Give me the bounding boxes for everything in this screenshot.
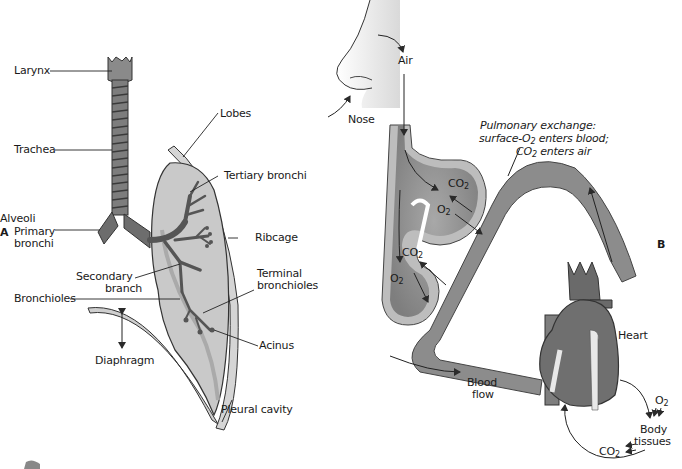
label-o2-lower: O2 xyxy=(390,273,403,285)
panel-a-letter: A xyxy=(0,226,9,239)
label-alveoli: Alveoli xyxy=(0,213,35,225)
label-co2-lower: CO2 xyxy=(402,247,423,259)
label-o2-upper: O2 xyxy=(437,204,450,216)
panel-b-letter: B xyxy=(657,238,665,251)
label-primary-bronchi-2: bronchi xyxy=(14,238,54,250)
respiratory-diagram xyxy=(0,0,682,469)
corner-artifact xyxy=(24,460,40,469)
label-body-tissues-2: tissues xyxy=(634,436,671,448)
label-heart: Heart xyxy=(618,330,648,342)
label-lobes: Lobes xyxy=(220,108,251,120)
larynx-shape xyxy=(108,57,132,83)
label-diaphragm: Diaphragm xyxy=(95,355,154,367)
label-ribcage: Ribcage xyxy=(255,232,298,244)
label-bronchioles: Bronchioles xyxy=(14,293,76,305)
label-co2-body: CO2 xyxy=(599,446,620,458)
label-blood-flow-2: flow xyxy=(472,389,494,401)
primary-bronchus-right xyxy=(124,214,150,248)
heart-shape xyxy=(540,262,619,410)
label-acinus: Acinus xyxy=(259,340,294,352)
label-tertiary-bronchi: Tertiary bronchi xyxy=(224,170,307,182)
label-pulmonary-exchange-2: surface-O2 enters blood; xyxy=(479,133,609,145)
panel-b-gas-exchange xyxy=(328,0,661,458)
label-nose: Nose xyxy=(348,114,375,126)
primary-bronchus-left xyxy=(98,212,118,244)
label-trachea: Trachea xyxy=(14,144,56,156)
label-secondary-branch-2: branch xyxy=(105,283,142,295)
label-pleural-cavity: Pleural cavity xyxy=(221,404,293,416)
label-co2-upper: CO2 xyxy=(448,178,469,190)
trachea-shape xyxy=(112,80,128,215)
label-larynx: Larynx xyxy=(14,65,50,77)
label-terminal-bronchioles-2: bronchioles xyxy=(257,280,318,292)
label-air: Air xyxy=(398,55,413,67)
label-pulmonary-exchange-3: CO2 enters air xyxy=(516,146,591,158)
nose-shape xyxy=(337,0,400,108)
label-o2-body: O2 xyxy=(655,395,668,407)
label-pulmonary-exchange-1: Pulmonary exchange: xyxy=(480,120,596,132)
